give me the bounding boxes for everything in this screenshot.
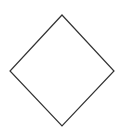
diagram-canvas: [0, 0, 124, 132]
diagram-svg: [0, 0, 124, 132]
decision-diamond-shape: [10, 15, 114, 126]
